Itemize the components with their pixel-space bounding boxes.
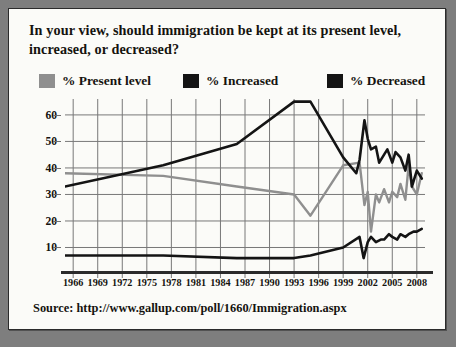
x-axis-tick-label: 1987 [235, 277, 255, 288]
poster-page: In your view, should immigration be kept… [8, 8, 446, 330]
y-axis-tick-mark [53, 194, 61, 195]
x-axis-tick-label: 1996 [308, 277, 328, 288]
x-axis-tick-label: 1966 [63, 277, 83, 288]
x-axis-tick-label: 1978 [161, 277, 181, 288]
y-axis-labels: 102030405060 [9, 99, 61, 274]
legend-item-increased: % Increased [183, 71, 278, 91]
chart-lines [65, 99, 425, 274]
legend-label-present-level: % Present level [62, 73, 151, 89]
x-axis-tick-label: 2005 [382, 277, 402, 288]
x-axis-tick-label: 1975 [137, 277, 157, 288]
x-axis-tick-label: 1984 [210, 277, 230, 288]
legend-swatch-present-level [39, 74, 55, 88]
legend-label-increased: % Increased [206, 73, 278, 89]
x-axis-tick-label: 1972 [112, 277, 132, 288]
legend-item-decreased: % Decreased [327, 71, 425, 91]
x-axis-tick-label: 1990 [259, 277, 279, 288]
y-axis-tick-mark [53, 168, 61, 169]
y-axis-tick-mark [53, 141, 61, 142]
legend-label-decreased: % Decreased [350, 73, 425, 89]
x-axis-tick-label: 1999 [333, 277, 353, 288]
x-axis-line [61, 271, 433, 274]
source-caption: Source: http://www.gallup.com/poll/1660/… [33, 301, 347, 316]
x-axis-tick-label: 1981 [186, 277, 206, 288]
y-axis-tick-mark [53, 221, 61, 222]
chart-plot-area: 102030405060 196619691972197519781981198… [9, 99, 447, 289]
x-axis-tick-label: 2008 [407, 277, 427, 288]
x-axis-labels: 1966196919721975197819811984198719901993… [9, 277, 447, 295]
line-chart-svg [65, 99, 425, 280]
legend-item-present-level: % Present level [39, 71, 151, 91]
x-axis-tick-label: 2002 [358, 277, 378, 288]
page-title: In your view, should immigration be kept… [29, 21, 429, 59]
chart-legend: % Present level % Increased % Decreased [31, 71, 431, 93]
x-axis-tick-label: 1969 [88, 277, 108, 288]
y-axis-tick-mark [53, 247, 61, 248]
legend-swatch-increased [183, 74, 199, 88]
legend-swatch-decreased [327, 74, 343, 88]
y-axis-tick-mark [53, 115, 61, 116]
x-axis-tick-label: 1993 [284, 277, 304, 288]
